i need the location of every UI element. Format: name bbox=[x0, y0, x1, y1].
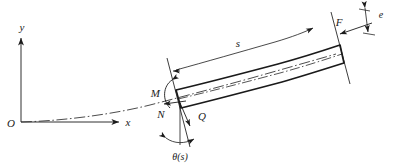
figure-root: s F e M N Q bbox=[0, 0, 394, 168]
dimension-s: s bbox=[173, 28, 313, 71]
eccentricity-label: e bbox=[379, 9, 384, 20]
dimension-e: e bbox=[359, 8, 384, 35]
beam-diagram-svg: s F e M N Q bbox=[0, 0, 394, 168]
origin-label: O bbox=[7, 117, 15, 129]
y-axis-label: y bbox=[19, 21, 25, 33]
beam-centerline bbox=[21, 54, 336, 122]
x-axis-label: x bbox=[125, 116, 131, 128]
dimension-e-arrow bbox=[365, 8, 368, 32]
beam-lower-edge bbox=[181, 63, 344, 108]
shear-force-label: Q bbox=[198, 110, 206, 122]
normal-force-arrow bbox=[164, 101, 186, 104]
beam-upper-edge bbox=[176, 45, 340, 90]
beam-axis-dashdot bbox=[178, 54, 342, 99]
force-F-label: F bbox=[335, 16, 343, 28]
coordinate-axes bbox=[21, 38, 119, 122]
dimension-s-line bbox=[176, 28, 313, 70]
angle-label: θ(s) bbox=[172, 151, 188, 163]
angle-theta: θ(s) bbox=[166, 103, 194, 163]
normal-force-label: N bbox=[156, 108, 165, 120]
arc-length-label: s bbox=[236, 37, 240, 49]
beam-body bbox=[176, 45, 344, 108]
moment-label: M bbox=[150, 87, 161, 99]
internal-normal-force-N: N bbox=[156, 101, 186, 120]
